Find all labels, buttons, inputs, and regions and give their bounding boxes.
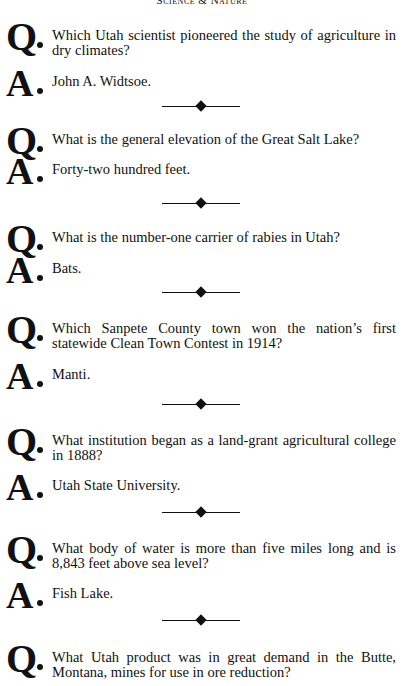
answer-text: John A. Widtsoe.: [52, 66, 151, 89]
question-2: Q What is the general elevation of the G…: [6, 124, 396, 158]
a-marker: A: [6, 470, 42, 504]
page-header: Science & Nature: [0, 0, 404, 6]
answer-text: Fish Lake.: [52, 578, 113, 601]
answer-text: Forty-two hundred feet.: [52, 154, 190, 177]
diamond-divider-icon: [162, 404, 240, 405]
question-6: Q What body of water is more than five m…: [6, 533, 396, 571]
diamond-divider-icon: [162, 292, 240, 293]
question-text: Which Sanpete County town won the nation…: [52, 313, 396, 351]
a-marker: A: [6, 359, 42, 393]
diamond-divider-icon: [162, 106, 240, 107]
answer-2: A Forty-two hundred feet.: [6, 154, 396, 188]
question-7: Q What Utah product was in great demand …: [6, 642, 396, 680]
answer-text: Utah State University.: [52, 470, 180, 493]
answer-3: A Bats.: [6, 253, 396, 287]
question-text: Which Utah scientist pioneered the study…: [52, 20, 396, 58]
a-marker: A: [6, 154, 42, 188]
question-1: Q Which Utah scientist pioneered the stu…: [6, 20, 396, 58]
answer-5: A Utah State University.: [6, 470, 396, 504]
answer-text: Bats.: [52, 253, 81, 276]
answer-4: A Manti.: [6, 359, 396, 393]
diamond-divider-icon: [162, 620, 240, 621]
question-text: What is the general elevation of the Gre…: [52, 124, 359, 147]
answer-1: A John A. Widtsoe.: [6, 66, 396, 100]
question-text: What institution began as a land-grant a…: [52, 425, 396, 463]
question-4: Q Which Sanpete County town won the nati…: [6, 313, 396, 351]
question-text: What Utah product was in great demand in…: [52, 642, 396, 680]
a-marker: A: [6, 578, 42, 612]
question-5: Q What institution began as a land-grant…: [6, 425, 396, 463]
diamond-divider-icon: [162, 203, 240, 204]
q-marker: Q: [6, 313, 42, 347]
answer-6: A Fish Lake.: [6, 578, 396, 612]
answer-text: Manti.: [52, 359, 90, 382]
q-marker: Q: [6, 642, 42, 676]
a-marker: A: [6, 253, 42, 287]
q-marker: Q: [6, 533, 42, 567]
question-3: Q What is the number-one carrier of rabi…: [6, 222, 396, 256]
diamond-divider-icon: [162, 512, 240, 513]
a-marker: A: [6, 66, 42, 100]
q-marker: Q: [6, 20, 42, 54]
question-text: What body of water is more than five mil…: [52, 533, 396, 571]
q-marker: Q: [6, 425, 42, 459]
question-text: What is the number-one carrier of rabies…: [52, 222, 340, 245]
